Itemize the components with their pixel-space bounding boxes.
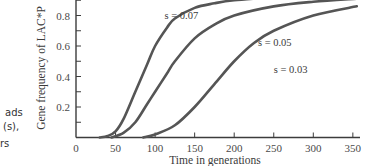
curve-005 bbox=[112, 0, 357, 137]
labels: 0.20.40.60.8050100150200250300350Time in… bbox=[35, 6, 362, 166]
x-tick-label: 300 bbox=[305, 142, 322, 154]
curves bbox=[100, 0, 357, 138]
axes bbox=[76, 0, 360, 138]
curve-label: s = 0.05 bbox=[258, 37, 292, 48]
x-tick-label: 0 bbox=[73, 142, 79, 154]
curve-label: s = 0.03 bbox=[274, 64, 308, 75]
line-chart: 0.20.40.60.8050100150200250300350Time in… bbox=[0, 0, 368, 166]
x-tick-label: 350 bbox=[345, 142, 362, 154]
x-tick-label: 200 bbox=[226, 142, 243, 154]
x-tick-label: 50 bbox=[110, 142, 122, 154]
y-axis-title: Gene frequency of LAC*P bbox=[35, 6, 48, 130]
x-tick-label: 250 bbox=[266, 142, 283, 154]
y-tick-label: 0.2 bbox=[56, 101, 70, 113]
y-tick-label: 0.6 bbox=[56, 40, 70, 52]
y-tick-label: 0.4 bbox=[56, 71, 70, 83]
x-tick-label: 100 bbox=[147, 142, 164, 154]
curve-label: s = 0.07 bbox=[165, 10, 199, 21]
y-tick-label: 0.8 bbox=[56, 10, 70, 22]
x-axis-title: Time in generations bbox=[169, 154, 261, 166]
curve-003 bbox=[143, 6, 357, 137]
x-tick-label: 150 bbox=[186, 142, 203, 154]
